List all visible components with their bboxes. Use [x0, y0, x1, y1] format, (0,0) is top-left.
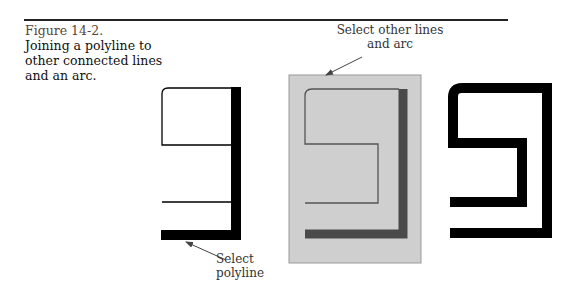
- panel-after: [450, 88, 547, 233]
- arrow-select-polyline: [186, 242, 226, 260]
- panel-before: [161, 87, 236, 260]
- arrow-select-other: [326, 57, 362, 75]
- figure-illustration: [0, 0, 575, 292]
- polyline-thick: [161, 87, 236, 235]
- thin-lines-and-arc: [162, 88, 232, 202]
- joined-polyline: [450, 88, 547, 233]
- panel-selecting: [289, 57, 421, 263]
